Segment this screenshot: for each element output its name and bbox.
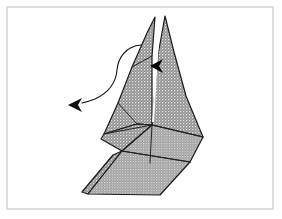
- fold-motion-arrowhead-icon: [68, 98, 82, 112]
- right-peak-face: [152, 16, 203, 137]
- origami-model: [82, 16, 203, 195]
- origami-diagram-canvas: [0, 0, 282, 219]
- origami-diagram: [0, 0, 282, 219]
